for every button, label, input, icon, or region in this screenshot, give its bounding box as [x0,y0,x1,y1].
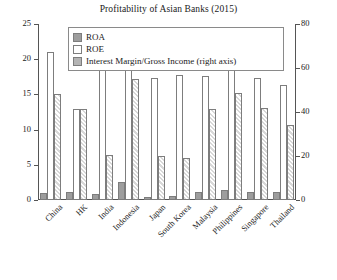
bar-group [38,24,64,200]
bar-roe [47,52,54,200]
right-axis-tick-label: 80 [301,19,327,28]
right-axis-tick [296,68,300,69]
category-label: India [96,202,115,221]
legend-label-interest-margin: Interest Margin/Gross Income (right axis… [86,56,236,67]
category-label: Singapore [239,202,270,233]
category-label: China [43,202,64,223]
bar-roa [247,192,254,200]
category-labels: ChinaHKIndiaIndonesiaJapanSouth KoreaMal… [38,202,296,278]
bar-roa [40,193,47,200]
bar-interest-margin [54,94,61,200]
legend-label-roe: ROE [86,44,104,55]
bar-roe [176,75,183,200]
bar-roe [73,109,80,200]
bar-roe [151,78,158,200]
left-axis-tick-label: 25 [5,19,31,28]
category-label: Japan [146,202,167,223]
roa-swatch-icon [73,33,82,42]
right-axis-tick-label: 40 [301,107,327,116]
bar-interest-margin [261,108,268,200]
left-axis-tick-label: 20 [5,54,31,63]
right-axis-tick-label: 20 [301,151,327,160]
legend-item-interest-margin: Interest Margin/Gross Income (right axis… [73,55,279,67]
roe-swatch-icon [73,45,82,54]
bar-roa [169,196,176,200]
right-axis-tick-label: 0 [301,195,327,204]
category-label: Indonesia [111,202,141,232]
left-axis-tick [34,200,38,201]
bar-roe [99,65,106,200]
legend-label-roa: ROA [86,32,105,43]
bar-interest-margin [80,109,87,200]
right-axis-tick [296,112,300,113]
bar-interest-margin [132,79,139,200]
bar-interest-margin [158,156,165,200]
category-label: Thailand [268,202,296,230]
chart-title: Profitability of Asian Banks (2015) [0,4,337,14]
left-axis-tick-label: 5 [5,160,31,169]
bar-roe [280,85,287,200]
bar-roa [118,182,125,200]
bar-roa [144,197,151,200]
interest-margin-swatch-icon [73,57,82,66]
category-label: HK [74,202,90,218]
right-axis-tick [296,24,300,25]
chart-legend: ROA ROE Interest Margin/Gross Income (ri… [68,27,284,71]
legend-item-roe: ROE [73,43,279,55]
bar-roa [195,192,202,200]
right-axis-tick [296,156,300,157]
left-axis-tick-label: 0 [5,195,31,204]
bar-roe [228,62,235,200]
right-axis-tick-label: 60 [301,63,327,72]
bar-interest-margin [235,93,242,200]
bar-roa [221,190,228,200]
left-axis-tick-label: 10 [5,125,31,134]
bar-roa [92,194,99,200]
bar-interest-margin [106,155,113,200]
bar-interest-margin [209,109,216,200]
bar-roe [254,78,261,200]
legend-item-roa: ROA [73,31,279,43]
bar-interest-margin [287,125,294,200]
right-axis-tick [296,200,300,201]
bar-roa [66,192,73,200]
bar-roe [202,76,209,200]
left-axis-tick-label: 15 [5,89,31,98]
chart-container: Profitability of Asian Banks (2015) 0510… [0,0,337,280]
bar-roa [273,192,280,200]
bar-roe [125,59,132,200]
bar-interest-margin [183,158,190,200]
